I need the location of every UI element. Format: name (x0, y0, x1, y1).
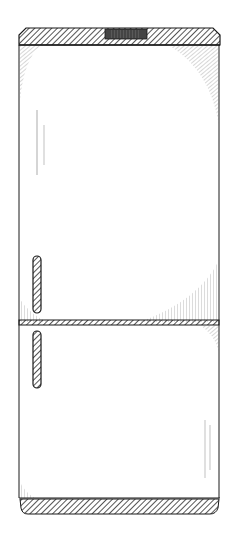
lower-door-handle (33, 331, 41, 388)
base-plinth (19, 498, 220, 514)
upper-door-handle (33, 256, 41, 313)
lower-door (19, 325, 219, 498)
cabinet-body (19, 45, 219, 498)
door-divider (19, 320, 219, 325)
upper-door (19, 46, 219, 322)
refrigerator-sketch (0, 0, 234, 540)
top-cap (19, 28, 220, 45)
